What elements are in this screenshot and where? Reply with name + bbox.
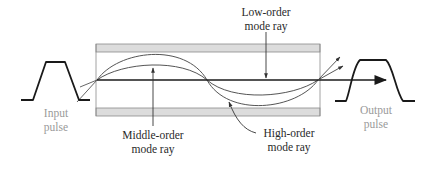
output-pulse-label-line1: Output [360, 104, 393, 117]
input-ray-lower [77, 80, 97, 102]
high-order-label-line1: High-order [263, 127, 314, 140]
input-pulse-label-line2: pulse [44, 121, 68, 134]
middle-order-label-line1: Middle-order [122, 129, 183, 141]
input-pulse-waveform [21, 62, 90, 100]
output-pulse-label-line2: pulse [364, 118, 388, 131]
exit-ray-upper [318, 57, 340, 80]
bottom-cladding [96, 108, 320, 116]
middle-order-label-line2: mode ray [131, 143, 174, 156]
exit-ray-lower [318, 66, 343, 80]
modal-dispersion-diagram: Low-order mode ray Middle-order mode ray… [0, 0, 434, 169]
input-ray-upper [80, 80, 97, 87]
input-pulse-label-line1: Input [44, 107, 69, 120]
low-order-label-line1: Low-order [241, 6, 290, 18]
low-order-label-line2: mode ray [244, 20, 287, 33]
high-order-label-line2: mode ray [267, 141, 310, 154]
top-cladding [96, 44, 320, 52]
